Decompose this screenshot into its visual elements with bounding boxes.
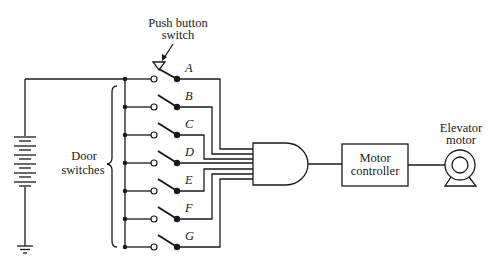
switch-blade <box>158 151 177 163</box>
elevator-motor-label-2: motor <box>446 133 477 147</box>
battery <box>14 79 36 246</box>
switch-blade <box>158 207 177 219</box>
open-contact <box>151 76 157 82</box>
switch-label: E <box>184 173 193 187</box>
ground-icon <box>17 246 33 253</box>
switch-blade <box>158 235 177 247</box>
door-switches-label-2: switches <box>61 163 104 177</box>
switch-label: A <box>184 61 193 75</box>
switch-e: E <box>123 169 253 194</box>
open-contact <box>151 132 157 138</box>
switch-label: C <box>185 117 194 131</box>
open-contact <box>151 216 157 222</box>
elevator-circuit-diagram: Door switches Push button switch ABCDEFG… <box>0 0 497 266</box>
switch-blade <box>158 95 177 107</box>
switch-blade <box>158 123 177 135</box>
motor-controller-label: Motor <box>359 151 391 165</box>
open-contact <box>151 160 157 166</box>
switch-d: D <box>123 145 253 166</box>
switch-label: D <box>184 145 194 159</box>
open-contact <box>151 188 157 194</box>
switch-a: A <box>123 61 253 149</box>
switch-blade <box>158 179 177 191</box>
open-contact <box>151 244 157 250</box>
switch-label: B <box>185 89 193 103</box>
switch-label: F <box>184 201 193 215</box>
push-button-pointer <box>164 44 173 58</box>
door-switches-label: Door <box>71 149 98 163</box>
open-contact <box>151 104 157 110</box>
door-switches-brace <box>107 86 117 247</box>
motor-icon <box>445 150 476 186</box>
push-button-icon <box>153 62 165 70</box>
switch-label: G <box>185 229 194 243</box>
motor-controller-label-2: controller <box>351 164 400 178</box>
and-gate <box>253 143 308 185</box>
push-button-label-2: switch <box>162 28 195 42</box>
